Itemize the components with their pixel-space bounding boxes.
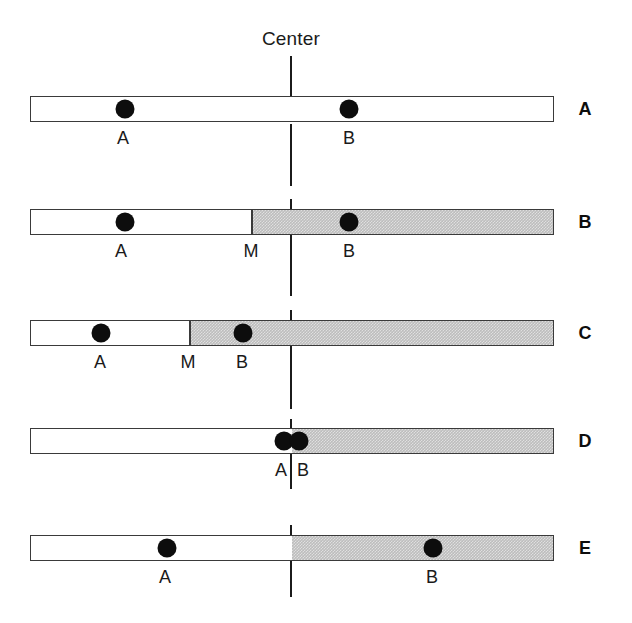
tick-label-b-row-e: B — [426, 567, 438, 588]
row-letter-b: B — [579, 212, 592, 233]
center-axis-label: Center — [262, 28, 320, 50]
marker-dot-b-row-a — [340, 100, 359, 119]
shaded-segment — [251, 210, 553, 234]
row-letter-d: D — [579, 431, 592, 452]
breakpoint-divider — [251, 210, 253, 234]
center-line-segment-4 — [290, 232, 292, 296]
center-line-segment-2 — [290, 124, 292, 186]
marker-dot-a-row-b — [116, 213, 135, 232]
marker-dot-a-row-e — [158, 539, 177, 558]
center-line-segment-10 — [290, 557, 292, 597]
chromosome-diagram: Center ABAAMBBAMBCABDABE — [0, 0, 632, 623]
chromosome-bar-a — [30, 96, 554, 122]
marker-dot-b-row-e — [424, 539, 443, 558]
tick-label-b-row-a: B — [343, 128, 355, 149]
chromosome-bar-e — [30, 535, 554, 561]
tick-label-a-row-e: A — [159, 567, 171, 588]
tick-label-a-row-a: A — [117, 128, 129, 149]
tick-label-a-row-b: A — [115, 241, 127, 262]
marker-dot-a-row-a — [116, 100, 135, 119]
tick-label-m-row-c: M — [181, 352, 196, 373]
marker-dot-b-row-b — [340, 213, 359, 232]
tick-label-b-row-b: B — [343, 241, 355, 262]
tick-label-a-row-c: A — [94, 352, 106, 373]
row-letter-c: C — [579, 323, 592, 344]
marker-dot-a-row-c — [92, 324, 111, 343]
marker-dot-b-row-c — [234, 324, 253, 343]
chromosome-bar-b — [30, 209, 554, 235]
tick-label-b-row-c: B — [236, 352, 248, 373]
shaded-segment — [292, 536, 553, 560]
tick-label-m-row-b: M — [244, 241, 259, 262]
marker-dot-b-row-d — [290, 432, 309, 451]
center-line-segment-8 — [290, 451, 292, 489]
row-letter-e: E — [579, 538, 591, 559]
breakpoint-divider — [189, 321, 191, 345]
center-line-segment-6 — [290, 341, 292, 409]
tick-label-b-row-d: B — [297, 460, 309, 481]
shaded-segment — [292, 429, 553, 453]
tick-label-a-row-d: A — [275, 460, 287, 481]
row-letter-a: A — [579, 99, 592, 120]
